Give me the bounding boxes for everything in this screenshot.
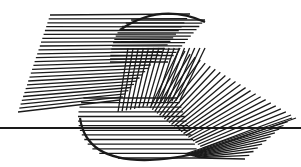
logo-canvas (0, 0, 301, 167)
string-art-logo (0, 0, 301, 167)
string-line (200, 158, 245, 159)
string-line (181, 88, 246, 132)
cap-arc (120, 14, 205, 30)
string-line (186, 94, 256, 136)
string-line (42, 38, 173, 39)
